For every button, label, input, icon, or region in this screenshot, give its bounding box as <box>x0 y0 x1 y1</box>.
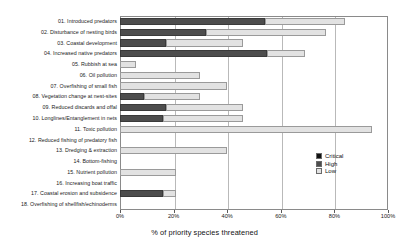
category-label: 12. Reduced fishing of predatory fish <box>0 135 117 146</box>
bar-segment-low <box>265 18 345 25</box>
stacked-bar <box>120 93 200 100</box>
stacked-bar <box>120 29 326 36</box>
bar-segment-low <box>120 169 176 176</box>
bar-segment-low <box>120 72 200 79</box>
tick-label: 80% <box>329 213 340 219</box>
bar-segment-low <box>120 61 136 68</box>
legend-item: High <box>316 161 343 167</box>
bar-segment-low <box>166 39 244 46</box>
bar-row <box>120 124 388 135</box>
bar-row <box>120 156 388 167</box>
tick-label: 40% <box>222 213 233 219</box>
bar-segment-high <box>120 93 144 100</box>
tick-label: 0% <box>116 213 124 219</box>
category-label: 07. Overfishing of small fish <box>0 81 117 92</box>
stacked-bar <box>120 72 200 79</box>
legend-item: Critical <box>316 153 343 159</box>
category-label: 10. Longlines/Entanglement in nets <box>0 113 117 124</box>
bar-row <box>120 91 388 102</box>
legend-label: Critical <box>325 153 343 159</box>
bar-row <box>120 102 388 113</box>
stacked-bar <box>120 190 176 197</box>
bar-row <box>120 145 388 156</box>
bar-segment-high <box>120 29 206 36</box>
category-label: 15. Nutrient pollution <box>0 167 117 178</box>
category-label: 13. Dredging & extraction <box>0 145 117 156</box>
chart-figure: 01. Introduced predators02. Disturbance … <box>0 0 409 249</box>
category-label: 09. Reduced discards and offal <box>0 102 117 113</box>
category-label: 18. Overfishing of shellfish/echinoderms <box>0 199 117 210</box>
stacked-bar <box>120 39 243 46</box>
stacked-bar <box>120 104 243 111</box>
bar-segment-high <box>120 104 166 111</box>
bar-row <box>120 48 388 59</box>
bar-segment-low <box>206 29 327 36</box>
tick-label: 60% <box>275 213 286 219</box>
legend-item: Low <box>316 168 343 174</box>
category-label: 16. Increasing boat traffic <box>0 178 117 189</box>
bar-segment-high <box>120 190 163 197</box>
bar-segment-high <box>120 50 267 57</box>
stacked-bar <box>120 115 243 122</box>
category-label: 17. Coastal erosion and subsidence <box>0 188 117 199</box>
bar-segment-high <box>120 115 163 122</box>
category-label: 03. Coastal development <box>0 38 117 49</box>
bars-layer <box>120 16 388 210</box>
bar-segment-low <box>120 147 227 154</box>
category-axis-labels: 01. Introduced predators02. Disturbance … <box>0 16 117 210</box>
stacked-bar <box>120 61 136 68</box>
bar-row <box>120 27 388 38</box>
bar-row <box>120 199 388 210</box>
bar-segment-high <box>120 18 265 25</box>
category-label: 06. Oil pollution <box>0 70 117 81</box>
bar-row <box>120 135 388 146</box>
category-label: 14. Bottom-fishing <box>0 156 117 167</box>
bar-row <box>120 38 388 49</box>
bar-segment-low <box>144 93 200 100</box>
value-axis-ticks: 0%20%40%60%80%100% <box>120 210 388 222</box>
legend-swatch-icon <box>316 168 322 174</box>
bar-row <box>120 16 388 27</box>
stacked-bar <box>120 18 345 25</box>
tick-label: 100% <box>381 213 395 219</box>
stacked-bar <box>120 169 176 176</box>
tick-label: 20% <box>168 213 179 219</box>
bar-segment-low <box>163 115 243 122</box>
category-label: 01. Introduced predators <box>0 16 117 27</box>
stacked-bar <box>120 126 372 133</box>
category-label: 08. Vegetation change at nest-sites <box>0 91 117 102</box>
bar-segment-high <box>120 39 166 46</box>
legend-swatch-icon <box>316 153 322 159</box>
legend-label: High <box>325 161 337 167</box>
x-axis-title: % of priority species threatened <box>0 228 409 237</box>
bar-segment-low <box>120 126 372 133</box>
stacked-bar <box>120 147 227 154</box>
stacked-bar <box>120 82 227 89</box>
category-label: 05. Rubbish at sea <box>0 59 117 70</box>
bar-segment-low <box>163 190 176 197</box>
bar-row <box>120 81 388 92</box>
category-label: 02. Disturbance of nesting birds <box>0 27 117 38</box>
bar-row <box>120 113 388 124</box>
legend-label: Low <box>325 168 336 174</box>
stacked-bar <box>120 50 305 57</box>
bar-segment-low <box>267 50 305 57</box>
category-label: 04. Increased native predators <box>0 48 117 59</box>
bar-segment-low <box>120 82 227 89</box>
bar-row <box>120 188 388 199</box>
bar-row <box>120 70 388 81</box>
bar-row <box>120 178 388 189</box>
bar-row <box>120 59 388 70</box>
chart-legend: CriticalHighLow <box>316 153 343 174</box>
legend-swatch-icon <box>316 161 322 167</box>
bar-segment-low <box>166 104 244 111</box>
bar-row <box>120 167 388 178</box>
category-label: 11. Toxic pollution <box>0 124 117 135</box>
